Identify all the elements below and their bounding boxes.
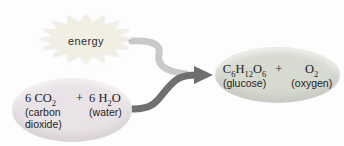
- co2-group: 6 CO2 (carbon dioxide): [25, 91, 70, 130]
- oxygen-group: O2 (oxygen): [291, 62, 332, 89]
- oxygen-label: (oxygen): [291, 77, 332, 89]
- co2-label: (carbon dioxide): [25, 106, 70, 130]
- energy-burst: energy: [36, 11, 136, 66]
- reactants-plus-sign: +: [76, 91, 83, 106]
- h2o-label: (water): [89, 106, 122, 118]
- products-oval: C6H12O6 (glucose) + O2 (oxygen): [215, 47, 340, 103]
- energy-flow-arrow: [132, 41, 186, 74]
- reactants-oval: 6 CO2 (carbon dioxide) + 6 H2O (water): [12, 78, 132, 142]
- products-equation: C6H12O6 (glucose) + O2 (oxygen): [223, 62, 332, 89]
- co2-formula: 6 CO2: [25, 91, 56, 106]
- glucose-label: (glucose): [223, 77, 266, 89]
- reactants-flow-arrow: [133, 75, 197, 109]
- h2o-formula: 6 H2O: [89, 91, 121, 106]
- h2o-group: 6 H2O (water): [89, 91, 122, 118]
- arrowhead-icon: [194, 66, 213, 84]
- glucose-formula: C6H12O6: [223, 62, 266, 77]
- reactants-equation: 6 CO2 (carbon dioxide) + 6 H2O (water): [25, 91, 122, 130]
- energy-label: energy: [36, 11, 136, 66]
- glucose-group: C6H12O6 (glucose): [223, 62, 266, 89]
- photosynthesis-equation-diagram: energy 6 CO2 (carbon dioxide) + 6 H2O (w…: [0, 0, 344, 146]
- oxygen-formula: O2: [305, 62, 318, 77]
- products-plus-sign: +: [275, 62, 282, 77]
